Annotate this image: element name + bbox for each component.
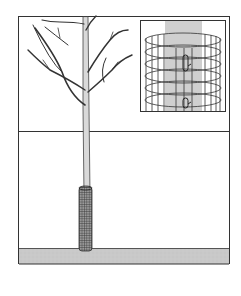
inset-detail: [141, 21, 226, 112]
tree: [28, 16, 132, 195]
trunk-guard: [79, 186, 92, 251]
ground: [19, 248, 229, 264]
tree-guard-illustration: [0, 0, 241, 296]
